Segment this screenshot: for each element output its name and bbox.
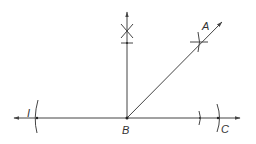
tick-vertical-dot [126, 42, 128, 44]
label-B: B [122, 124, 129, 136]
label-A: A [201, 20, 209, 32]
label-C: C [221, 123, 229, 135]
geometry-construction-diagram: A B C I [0, 0, 256, 144]
point-C-mark [217, 117, 219, 119]
point-I-mark [36, 117, 38, 119]
label-I: I [27, 107, 30, 119]
construction-arc-I [35, 100, 38, 133]
point-B [126, 117, 129, 120]
diagonal-ray-BA [127, 22, 222, 118]
